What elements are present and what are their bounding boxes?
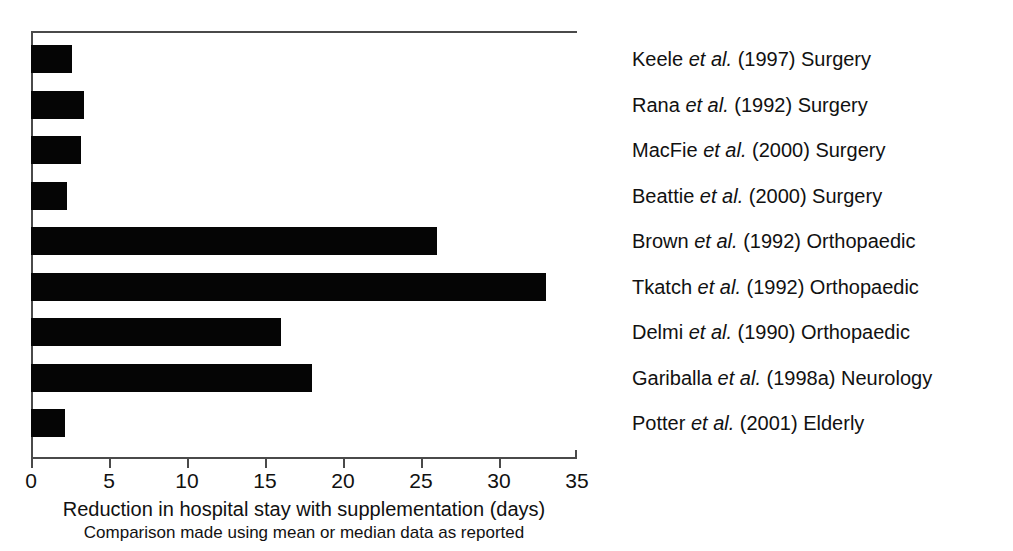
x-tick-label: 35 <box>565 470 588 491</box>
study-et-al: et al. <box>685 94 728 116</box>
x-tick-label: 5 <box>103 470 115 491</box>
bar <box>31 91 84 119</box>
bar <box>31 136 81 164</box>
study-label: Keele et al. (1997) Surgery <box>632 47 871 71</box>
study-author: Delmi <box>632 321 689 343</box>
x-tick-label: 15 <box>253 470 276 491</box>
bar <box>31 273 546 301</box>
study-author: Potter <box>632 412 691 434</box>
study-label: Potter et al. (2001) Elderly <box>632 411 864 435</box>
study-citation-and-specialty: (1990) Orthopaedic <box>732 321 910 343</box>
x-tick-label: 20 <box>331 470 354 491</box>
study-et-al: et al. <box>694 230 737 252</box>
x-tick <box>265 459 267 468</box>
study-citation-and-specialty: (1998a) Neurology <box>761 367 932 389</box>
bar <box>31 182 67 210</box>
study-author: Keele <box>632 48 689 70</box>
study-author: Gariballa <box>632 367 718 389</box>
study-et-al: et al. <box>691 412 734 434</box>
x-axis-label: Reduction in hospital stay with suppleme… <box>31 498 577 521</box>
x-tick <box>421 459 423 468</box>
study-author: Rana <box>632 94 685 116</box>
study-citation-and-specialty: (2001) Elderly <box>734 412 864 434</box>
study-label: Brown et al. (1992) Orthopaedic <box>632 229 916 253</box>
bar <box>31 45 72 73</box>
study-labels-column: Keele et al. (1997) SurgeryRana et al. (… <box>632 0 1013 551</box>
study-et-al: et al. <box>700 185 743 207</box>
study-et-al: et al. <box>718 367 761 389</box>
study-et-al: et al. <box>689 321 732 343</box>
study-label: MacFie et al. (2000) Surgery <box>632 138 885 162</box>
x-tick <box>31 459 33 468</box>
bar <box>31 364 312 392</box>
study-author: Brown <box>632 230 694 252</box>
study-label: Beattie et al. (2000) Surgery <box>632 184 882 208</box>
study-label: Delmi et al. (1990) Orthopaedic <box>632 320 910 344</box>
study-author: Tkatch <box>632 276 698 298</box>
study-citation-and-specialty: (2000) Surgery <box>743 185 882 207</box>
x-tick <box>343 459 345 468</box>
plot-area <box>31 31 577 459</box>
bar <box>31 409 65 437</box>
study-author: MacFie <box>632 139 703 161</box>
x-tick-label: 0 <box>25 470 37 491</box>
study-et-al: et al. <box>703 139 746 161</box>
study-label: Gariballa et al. (1998a) Neurology <box>632 366 932 390</box>
study-et-al: et al. <box>689 48 732 70</box>
x-tick-label: 25 <box>409 470 432 491</box>
bar-chart-figure: 05101520253035 Keele et al. (1997) Surge… <box>0 0 1013 551</box>
x-axis-sublabel: Comparison made using mean or median dat… <box>31 523 577 543</box>
study-citation-and-specialty: (1992) Surgery <box>729 94 868 116</box>
bar <box>31 227 437 255</box>
x-tick <box>109 459 111 468</box>
x-tick-label: 30 <box>487 470 510 491</box>
study-label: Tkatch et al. (1992) Orthopaedic <box>632 275 919 299</box>
x-axis-right-cap <box>575 450 577 459</box>
study-citation-and-specialty: (1992) Orthopaedic <box>738 230 916 252</box>
bar <box>31 318 281 346</box>
x-axis-line <box>31 457 577 459</box>
x-tick-label: 10 <box>175 470 198 491</box>
x-tick <box>499 459 501 468</box>
study-label: Rana et al. (1992) Surgery <box>632 93 868 117</box>
study-citation-and-specialty: (2000) Surgery <box>746 139 885 161</box>
study-citation-and-specialty: (1992) Orthopaedic <box>741 276 919 298</box>
study-author: Beattie <box>632 185 700 207</box>
study-et-al: et al. <box>698 276 741 298</box>
plot-top-border <box>31 31 577 33</box>
x-tick <box>187 459 189 468</box>
study-citation-and-specialty: (1997) Surgery <box>732 48 871 70</box>
